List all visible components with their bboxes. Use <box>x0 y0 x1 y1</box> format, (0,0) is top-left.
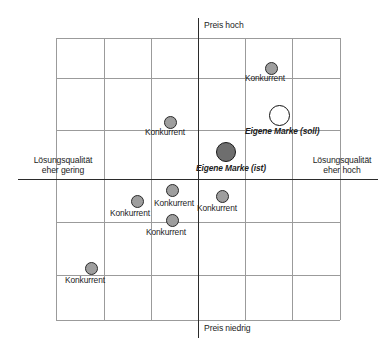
competitor-bottom-left-bubble <box>85 262 98 275</box>
axis-label-price-low: Preis niedrig <box>204 324 250 334</box>
competitor-lower-mid-upper-label: Konkurrent <box>154 199 194 208</box>
competitor-lower-mid-lower-bubble <box>166 214 179 227</box>
competitor-lower-left-label: Konkurrent <box>110 209 150 218</box>
competitor-bottom-left-label: Konkurrent <box>65 276 105 285</box>
axis-horizontal-quality <box>18 179 378 180</box>
competitor-lower-right-label: Konkurrent <box>197 204 237 213</box>
competitor-lower-mid-lower-label: Konkurrent <box>146 228 186 237</box>
axis-vertical-price <box>198 18 199 338</box>
axis-label-quality-high-line2: eher hoch <box>323 165 360 175</box>
own-brand-target-label: Eigene Marke (soll) <box>245 127 319 136</box>
axis-label-quality-high: Lösungsqualität eher hoch <box>297 156 387 175</box>
axis-label-price-high: Preis hoch <box>204 21 244 31</box>
axis-label-quality-low-line2: eher gering <box>42 165 84 175</box>
competitor-center-left-label: Konkurrent <box>145 128 185 137</box>
positioning-map-figure: Preis hoch Preis niedrig Lösungsqualität… <box>0 0 389 358</box>
own-brand-target-bubble <box>269 105 290 126</box>
axis-label-quality-low-line1: Lösungsqualität <box>34 155 93 165</box>
grid-layer <box>0 0 389 358</box>
own-brand-current-label: Eigene Marke (ist) <box>196 164 266 173</box>
competitor-lower-right-bubble <box>216 190 229 203</box>
competitor-lower-mid-upper-bubble <box>166 184 179 197</box>
own-brand-current-bubble <box>216 142 236 162</box>
axis-label-quality-high-line1: Lösungsqualität <box>313 155 372 165</box>
axis-label-quality-low: Lösungsqualität eher gering <box>18 156 108 175</box>
competitor-top-right-label: Konkurrent <box>245 74 285 83</box>
competitor-lower-left-bubble <box>131 195 144 208</box>
